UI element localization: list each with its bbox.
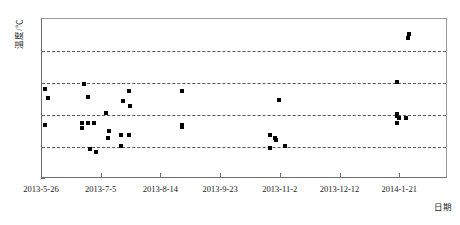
x-tick-mark-2014-1-21: [399, 173, 400, 178]
data-point: [127, 133, 131, 137]
plot-area: [41, 18, 447, 178]
x-tick-mark-2013-7-5: [101, 173, 102, 178]
data-point: [106, 136, 110, 140]
data-point: [404, 116, 408, 120]
x-tick-mark-2013-8-14: [160, 173, 161, 178]
data-point: [92, 121, 96, 125]
data-point: [395, 121, 399, 125]
data-point: [397, 116, 401, 120]
gridline-30: [42, 51, 446, 52]
data-point: [94, 150, 98, 154]
data-point: [43, 87, 47, 91]
x-tick-mark-2013-12-12: [340, 173, 341, 178]
data-point: [88, 147, 92, 151]
data-point: [395, 80, 399, 84]
data-point: [86, 95, 90, 99]
x-tick-mark-2013-9-23: [220, 173, 221, 178]
data-point: [119, 133, 123, 137]
gridline-15: [42, 147, 446, 148]
x-axis-title: 日期: [434, 200, 452, 212]
data-point: [107, 129, 111, 133]
data-point: [268, 146, 272, 150]
data-point: [43, 123, 47, 127]
data-point: [283, 144, 287, 148]
data-point: [407, 32, 411, 36]
y-tick-mark-10: [41, 178, 45, 179]
data-point: [80, 121, 84, 125]
data-point: [104, 111, 108, 115]
data-point: [274, 138, 278, 142]
y-axis-title: 温度/℃: [12, 0, 24, 70]
data-point: [268, 133, 272, 137]
gridline-20: [42, 115, 446, 116]
x-tick-label-2014-1-21: 2014-1-21: [354, 184, 444, 194]
data-point: [180, 89, 184, 93]
data-point: [406, 36, 410, 40]
data-point: [128, 104, 132, 108]
data-point: [127, 89, 131, 93]
gridline-25: [42, 83, 446, 84]
data-point: [119, 144, 123, 148]
chart-root: 温度/℃ 101520253035 2013-5-262013-7-52013-…: [0, 0, 460, 225]
data-point: [277, 98, 281, 102]
data-point: [46, 96, 50, 100]
data-point: [82, 82, 86, 86]
data-point: [86, 121, 90, 125]
data-point: [121, 99, 125, 103]
data-point: [180, 125, 184, 129]
x-tick-mark-2013-11-2: [280, 173, 281, 178]
data-point: [80, 126, 84, 130]
